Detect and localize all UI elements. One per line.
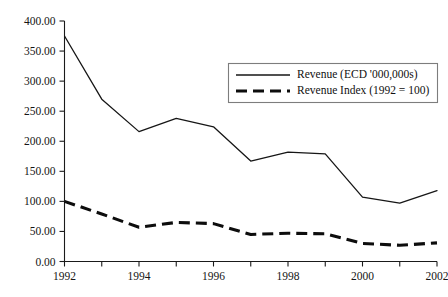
x-tick-label: 1998	[277, 270, 300, 282]
chart-legend: Revenue (ECD '000,000s) Revenue Index (1…	[229, 64, 438, 103]
y-tick-label: 150.00	[24, 165, 56, 177]
y-tick-label: 0.00	[35, 256, 55, 268]
x-tick-label: 1996	[202, 270, 225, 282]
y-axis-tick-labels: 0.0050.00100.00150.00200.00250.00300.003…	[24, 15, 56, 268]
plot-background	[0, 0, 448, 297]
y-tick-label: 350.00	[24, 45, 56, 57]
y-tick-label: 50.00	[30, 225, 56, 237]
y-tick-label: 250.00	[24, 105, 56, 117]
legend-label-revenue: Revenue (ECD '000,000s)	[297, 68, 418, 81]
x-tick-label: 2000	[351, 270, 374, 282]
x-tick-label: 1992	[53, 270, 76, 282]
y-tick-label: 300.00	[24, 75, 56, 87]
chart-canvas: 0.0050.00100.00150.00200.00250.00300.003…	[0, 0, 448, 297]
x-tick-label: 2002	[426, 270, 448, 282]
y-tick-label: 400.00	[24, 15, 56, 27]
x-tick-label: 1994	[128, 270, 151, 282]
y-tick-label: 100.00	[24, 195, 56, 207]
legend-label-revenue-index: Revenue Index (1992 = 100)	[297, 84, 429, 97]
y-tick-label: 200.00	[24, 135, 56, 147]
line-chart: 0.0050.00100.00150.00200.00250.00300.003…	[0, 0, 448, 297]
